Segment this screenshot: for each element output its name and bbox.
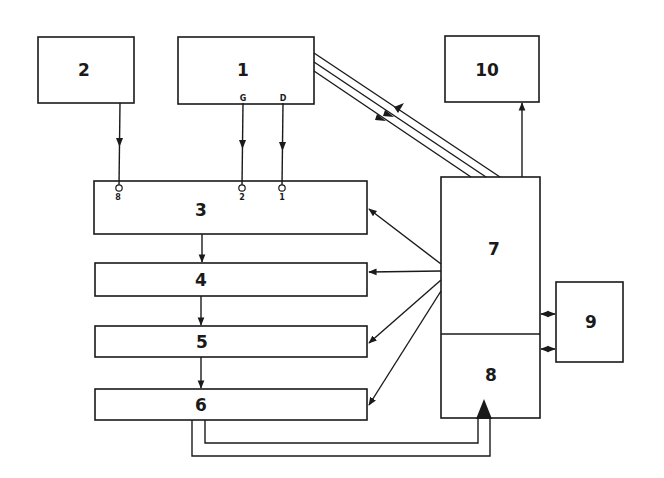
block-3-label: 3 (195, 200, 207, 220)
port-1-circle (279, 185, 285, 191)
block-9: 9 (556, 282, 623, 362)
block-4: 4 (95, 263, 367, 296)
block-10: 10 (445, 36, 539, 102)
block-8-label: 8 (485, 365, 497, 385)
connection-7-to-6 (369, 291, 441, 405)
block-9-label: 9 (585, 312, 597, 332)
block-7-8: 7 8 (441, 177, 540, 418)
block-1: 1 G D (178, 37, 314, 104)
block-3-port-1-label: 1 (279, 193, 285, 202)
block-6-label: 6 (195, 395, 207, 415)
connection-7-to-3 (369, 209, 441, 264)
block-7-label: 7 (488, 239, 500, 259)
block-diagram: 2 1 G D 10 3 8 2 1 4 5 6 7 8 (0, 0, 664, 478)
block-5: 5 (95, 326, 367, 357)
block-2-label: 2 (78, 60, 90, 80)
port-2-circle (239, 185, 245, 191)
block-2: 2 (38, 37, 134, 103)
block-6: 6 (95, 389, 367, 420)
block-1-port-g-label: G (240, 94, 247, 103)
connection-2-to-3 (116, 103, 123, 191)
block-3-port-8-label: 8 (115, 193, 121, 202)
block-1-port-d-label: D (280, 94, 287, 103)
connection-1d-to-3 (279, 103, 286, 191)
port-8-circle (116, 185, 122, 191)
connection-1g-to-3 (239, 103, 246, 191)
block-3: 3 8 2 1 (94, 181, 367, 234)
connection-7-to-4 (369, 271, 441, 272)
block-4-label: 4 (195, 270, 207, 290)
block-10-label: 10 (475, 60, 499, 80)
block-5-label: 5 (196, 332, 208, 352)
connection-7-to-5 (369, 280, 441, 343)
block-1-label: 1 (237, 60, 249, 80)
block-3-port-2-label: 2 (239, 193, 245, 202)
